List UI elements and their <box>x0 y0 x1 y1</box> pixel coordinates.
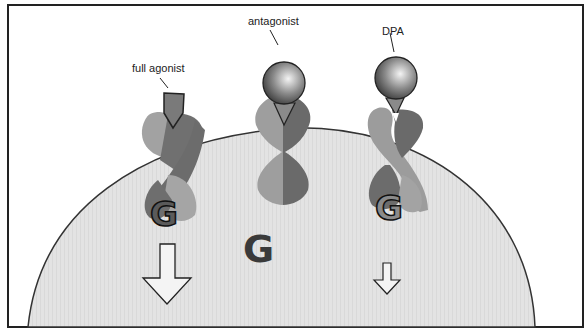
antagonist-label: antagonist <box>248 15 299 27</box>
receptor-diagram: G G G <box>0 0 588 333</box>
free-g-protein: G <box>243 227 274 271</box>
full-agonist-label: full agonist <box>132 62 185 74</box>
svg-text:G: G <box>375 188 403 228</box>
dpa-label: DPA <box>382 25 404 37</box>
svg-text:G: G <box>150 194 178 234</box>
